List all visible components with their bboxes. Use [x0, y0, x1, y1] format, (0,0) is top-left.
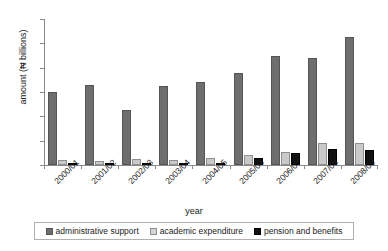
legend-swatch-icon	[46, 228, 53, 235]
bar-group	[341, 19, 378, 165]
x-category-slot: 2000/01	[44, 166, 81, 206]
x-axis-category-labels: 2000/012001/022002/032003/042004/052005/…	[44, 166, 378, 206]
bar-group	[267, 19, 304, 165]
bar-chart: amount (₦ billions) 0123456 2000/012001/…	[0, 0, 388, 251]
legend-swatch-icon	[150, 228, 157, 235]
legend-item: academic expenditure	[150, 226, 243, 236]
legend-item: pension and benefits	[254, 226, 342, 236]
legend-label: pension and benefits	[264, 226, 342, 236]
x-category-slot: 2007/08	[304, 166, 341, 206]
legend-swatch-icon	[254, 228, 261, 235]
x-axis-title: year	[0, 206, 388, 216]
x-category-slot: 2003/04	[155, 166, 192, 206]
bar-group	[44, 19, 81, 165]
bar-group	[230, 19, 267, 165]
x-category-slot: 2001/02	[81, 166, 118, 206]
x-category-slot: 2002/03	[118, 166, 155, 206]
x-category-slot: 2004/05	[192, 166, 229, 206]
bar-admin	[308, 58, 317, 165]
bar-group	[118, 19, 155, 165]
bar-admin	[345, 37, 354, 165]
bar-admin	[85, 85, 94, 165]
bar-group	[155, 19, 192, 165]
bar-admin	[271, 56, 280, 166]
bar-academic	[355, 143, 364, 165]
bar-academic	[318, 143, 327, 165]
plot-area: 0123456	[44, 19, 378, 165]
bar-admin	[234, 73, 243, 165]
bar-admin	[196, 82, 205, 165]
legend-label: academic expenditure	[160, 226, 243, 236]
bar-group	[304, 19, 341, 165]
bar-admin	[48, 92, 57, 165]
bar-group	[81, 19, 118, 165]
legend-label: administrative support	[56, 226, 139, 236]
bar-admin	[159, 86, 168, 165]
bar-groups	[44, 19, 378, 165]
x-category-slot: 2006/07	[267, 166, 304, 206]
x-category-slot: 2008/09	[341, 166, 378, 206]
chart-legend: administrative supportacademic expenditu…	[34, 222, 354, 240]
y-axis-title: amount (₦ billions)	[18, 0, 28, 137]
bar-admin	[122, 110, 131, 165]
legend-item: administrative support	[46, 226, 139, 236]
x-category-slot: 2005/06	[230, 166, 267, 206]
bar-group	[192, 19, 229, 165]
